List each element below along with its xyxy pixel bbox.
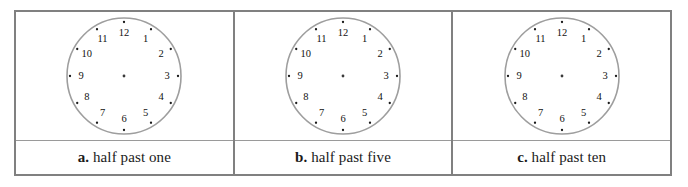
hour-numeral-9: 9	[516, 70, 521, 81]
hour-tick-dot-5	[588, 122, 590, 124]
clock-center-dot	[560, 75, 563, 78]
hour-numeral-11: 11	[98, 33, 108, 44]
clock-face-b[interactable]: 123456789101112	[281, 12, 405, 140]
hour-numeral-1: 1	[143, 33, 148, 44]
hour-numeral-7: 7	[538, 107, 543, 118]
clock-area-a: 123456789101112	[16, 12, 233, 141]
hour-numeral-6: 6	[122, 113, 127, 124]
hour-tick-dot-8	[295, 102, 297, 104]
worksheet-cell-b: 123456789101112 b. half past five	[233, 12, 452, 174]
hour-tick-dot-5	[369, 122, 371, 124]
hour-tick-dot-11	[315, 28, 317, 30]
hour-tick-dot-3	[615, 75, 617, 77]
question-prompt-b: half past five	[311, 149, 391, 165]
hour-tick-dot-6	[123, 129, 125, 131]
hour-numeral-8: 8	[522, 91, 527, 102]
hour-numeral-10: 10	[519, 48, 530, 59]
hour-numeral-6: 6	[340, 113, 345, 124]
hour-tick-dot-4	[389, 102, 391, 104]
hour-numeral-11: 11	[316, 33, 326, 44]
hour-tick-dot-12	[561, 21, 563, 23]
hour-tick-dot-1	[369, 28, 371, 30]
hour-tick-dot-6	[561, 129, 563, 131]
label-area-a: a. half past one	[16, 141, 233, 174]
hour-tick-dot-7	[534, 122, 536, 124]
hour-numeral-3: 3	[165, 70, 170, 81]
question-letter-b: b.	[295, 149, 307, 165]
hour-numeral-9: 9	[79, 70, 84, 81]
hour-tick-dot-10	[514, 48, 516, 50]
hour-numeral-9: 9	[297, 70, 302, 81]
hour-tick-dot-7	[96, 122, 98, 124]
hour-tick-dot-2	[389, 48, 391, 50]
question-label-c: c. half past ten	[517, 149, 606, 166]
hour-tick-dot-12	[123, 21, 125, 23]
hour-numeral-8: 8	[84, 91, 89, 102]
hour-numeral-4: 4	[159, 91, 165, 102]
clock-worksheet-table: 123456789101112 a. half past one 1234567…	[14, 10, 672, 176]
clock-area-b: 123456789101112	[235, 12, 452, 141]
question-prompt-c: half past ten	[532, 149, 607, 165]
hour-numeral-7: 7	[100, 107, 105, 118]
hour-tick-dot-9	[507, 75, 509, 77]
hour-tick-dot-2	[170, 48, 172, 50]
question-letter-c: c.	[517, 149, 528, 165]
hour-numeral-7: 7	[319, 107, 324, 118]
hour-numeral-1: 1	[362, 33, 367, 44]
hour-numeral-6: 6	[559, 113, 564, 124]
hour-numeral-3: 3	[383, 70, 388, 81]
hour-numeral-2: 2	[596, 48, 601, 59]
hour-tick-dot-1	[588, 28, 590, 30]
hour-numeral-12: 12	[338, 27, 349, 38]
hour-numeral-4: 4	[596, 91, 602, 102]
question-letter-a: a.	[78, 149, 89, 165]
clock-center-dot	[123, 75, 126, 78]
worksheet-cell-a: 123456789101112 a. half past one	[16, 12, 233, 174]
hour-tick-dot-8	[514, 102, 516, 104]
question-prompt-a: half past one	[93, 149, 171, 165]
hour-numeral-5: 5	[143, 107, 148, 118]
hour-tick-dot-4	[607, 102, 609, 104]
hour-numeral-12: 12	[556, 27, 567, 38]
hour-tick-dot-12	[342, 21, 344, 23]
label-area-b: b. half past five	[235, 141, 452, 174]
hour-tick-dot-9	[288, 75, 290, 77]
hour-tick-dot-9	[69, 75, 71, 77]
hour-tick-dot-7	[315, 122, 317, 124]
hour-numeral-5: 5	[362, 107, 367, 118]
hour-tick-dot-10	[295, 48, 297, 50]
hour-numeral-2: 2	[378, 48, 383, 59]
question-label-b: b. half past five	[295, 149, 391, 166]
clock-face-a[interactable]: 123456789101112	[62, 12, 186, 140]
hour-numeral-3: 3	[602, 70, 607, 81]
hour-numeral-5: 5	[581, 107, 586, 118]
hour-tick-dot-4	[170, 102, 172, 104]
hour-tick-dot-10	[76, 48, 78, 50]
hour-numeral-11: 11	[535, 33, 545, 44]
hour-numeral-12: 12	[119, 27, 130, 38]
hour-tick-dot-3	[177, 75, 179, 77]
worksheet-cell-c: 123456789101112 c. half past ten	[451, 12, 670, 174]
label-area-c: c. half past ten	[453, 141, 670, 174]
hour-tick-dot-11	[534, 28, 536, 30]
hour-tick-dot-8	[76, 102, 78, 104]
clock-area-c: 123456789101112	[453, 12, 670, 141]
clock-center-dot	[342, 75, 345, 78]
hour-tick-dot-3	[396, 75, 398, 77]
hour-numeral-8: 8	[303, 91, 308, 102]
hour-tick-dot-6	[342, 129, 344, 131]
hour-numeral-10: 10	[301, 48, 312, 59]
hour-tick-dot-11	[96, 28, 98, 30]
clock-face-c[interactable]: 123456789101112	[500, 12, 624, 140]
hour-numeral-4: 4	[378, 91, 384, 102]
hour-numeral-10: 10	[82, 48, 93, 59]
hour-numeral-2: 2	[159, 48, 164, 59]
hour-numeral-1: 1	[581, 33, 586, 44]
hour-tick-dot-5	[150, 122, 152, 124]
hour-tick-dot-2	[607, 48, 609, 50]
hour-tick-dot-1	[150, 28, 152, 30]
question-label-a: a. half past one	[78, 149, 171, 166]
